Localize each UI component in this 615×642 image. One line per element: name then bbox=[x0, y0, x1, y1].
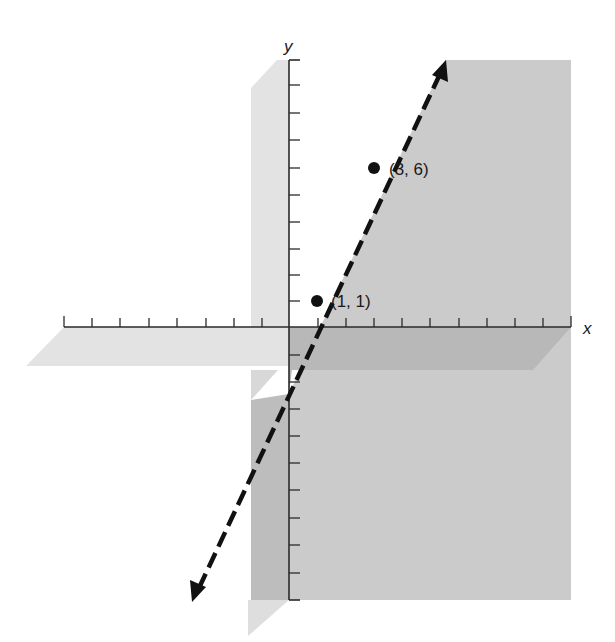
lower-left-strip bbox=[251, 394, 289, 600]
light-horizontal-band-left bbox=[26, 327, 289, 366]
y-axis-label: y bbox=[283, 37, 294, 56]
fade-triangle-bottom bbox=[248, 600, 289, 636]
x-axis-label: x bbox=[582, 319, 592, 338]
point-label-3-6: (3, 6) bbox=[389, 160, 429, 179]
light-vertical-strip-upper bbox=[251, 60, 289, 327]
lower-left-wedge bbox=[251, 370, 278, 400]
dark-horizontal-band-right bbox=[289, 327, 571, 370]
coordinate-plane-figure: (1, 1) (3, 6) x y bbox=[0, 0, 615, 642]
point-3-6 bbox=[368, 162, 380, 174]
point-label-1-1: (1, 1) bbox=[331, 292, 371, 311]
point-1-1 bbox=[311, 295, 323, 307]
shaded-regions bbox=[26, 60, 571, 636]
